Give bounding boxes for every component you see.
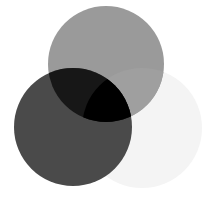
venn-diagram [0, 0, 203, 197]
